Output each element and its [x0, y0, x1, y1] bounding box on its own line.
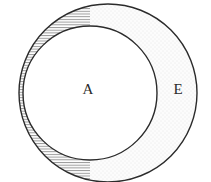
set-diagram-canvas: A E — [0, 0, 211, 182]
venn-diagram-svg: A E — [0, 0, 211, 182]
label-set-A: A — [83, 81, 94, 97]
label-set-E: E — [173, 81, 182, 97]
